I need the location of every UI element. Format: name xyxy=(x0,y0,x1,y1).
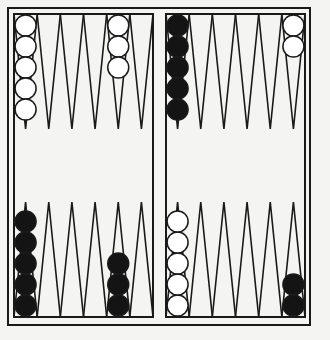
black-checker[interactable] xyxy=(15,211,36,232)
black-checker[interactable] xyxy=(167,36,188,57)
black-checker[interactable] xyxy=(15,295,36,316)
point-bottom-left-1[interactable] xyxy=(37,202,60,317)
point-bottom-right-1[interactable] xyxy=(189,202,212,317)
point-bottom-left-2[interactable] xyxy=(60,202,83,317)
black-checker[interactable] xyxy=(283,295,304,316)
white-checker[interactable] xyxy=(167,274,188,295)
point-top-left-1[interactable] xyxy=(37,14,60,129)
board-half-left xyxy=(14,14,153,317)
point-bottom-right-3[interactable] xyxy=(236,202,259,317)
black-checker[interactable] xyxy=(108,274,129,295)
white-checker[interactable] xyxy=(167,253,188,274)
board-half-right xyxy=(166,14,305,317)
black-checker[interactable] xyxy=(15,253,36,274)
white-checker[interactable] xyxy=(15,15,36,36)
point-top-left-2[interactable] xyxy=(60,14,83,129)
black-checker[interactable] xyxy=(283,274,304,295)
black-checker[interactable] xyxy=(15,274,36,295)
black-checker[interactable] xyxy=(167,78,188,99)
white-checker[interactable] xyxy=(167,295,188,316)
white-checker[interactable] xyxy=(15,78,36,99)
black-checker[interactable] xyxy=(108,253,129,274)
white-checker[interactable] xyxy=(167,211,188,232)
white-checker[interactable] xyxy=(15,99,36,120)
point-top-left-3[interactable] xyxy=(84,14,107,129)
point-top-right-3[interactable] xyxy=(236,14,259,129)
black-checker[interactable] xyxy=(167,15,188,36)
point-top-right-2[interactable] xyxy=(212,14,235,129)
white-checker[interactable] xyxy=(283,15,304,36)
black-checker[interactable] xyxy=(167,57,188,78)
board-outer-frame xyxy=(8,8,310,325)
white-checker[interactable] xyxy=(108,57,129,78)
white-checker[interactable] xyxy=(167,232,188,253)
black-checker[interactable] xyxy=(167,99,188,120)
backgammon-board xyxy=(0,0,330,340)
point-top-right-4[interactable] xyxy=(259,14,282,129)
point-bottom-right-2[interactable] xyxy=(212,202,235,317)
point-top-left-5[interactable] xyxy=(130,14,153,129)
point-bottom-right-4[interactable] xyxy=(259,202,282,317)
white-checker[interactable] xyxy=(15,57,36,78)
point-bottom-left-5[interactable] xyxy=(130,202,153,317)
white-checker[interactable] xyxy=(108,36,129,57)
black-checker[interactable] xyxy=(108,295,129,316)
white-checker[interactable] xyxy=(15,36,36,57)
point-bottom-left-3[interactable] xyxy=(84,202,107,317)
white-checker[interactable] xyxy=(283,36,304,57)
black-checker[interactable] xyxy=(15,232,36,253)
point-top-right-1[interactable] xyxy=(189,14,212,129)
white-checker[interactable] xyxy=(108,15,129,36)
